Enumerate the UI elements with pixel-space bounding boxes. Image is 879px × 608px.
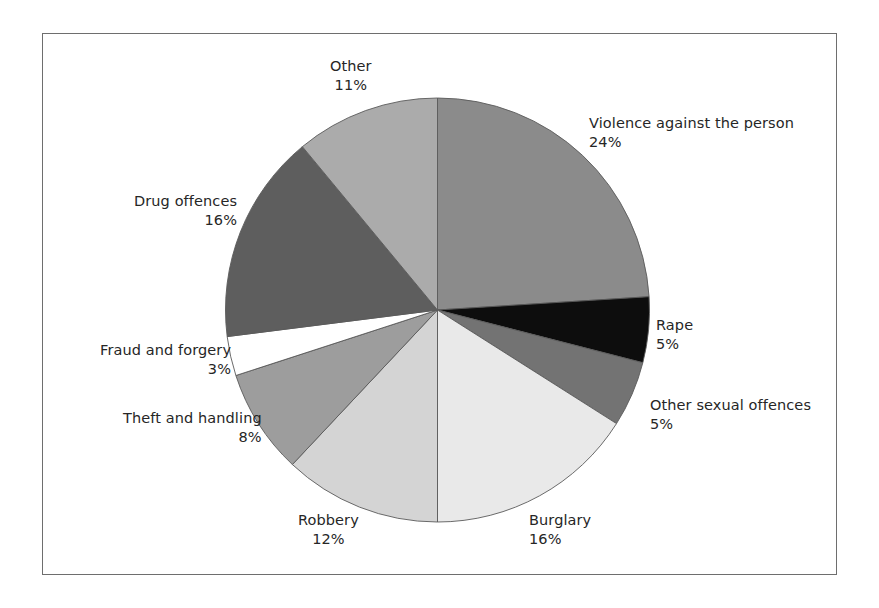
pie-slice-group xyxy=(225,98,649,522)
slice-label-other-sexual-offences-value: 5% xyxy=(650,415,811,434)
slice-label-other-sexual-offences: Other sexual offences 5% xyxy=(650,396,811,435)
slice-label-drug-offences-name: Drug offences xyxy=(134,192,237,211)
slice-label-burglary-name: Burglary xyxy=(529,511,591,530)
slice-label-theft-and-handling-value: 8% xyxy=(123,428,262,447)
slice-label-burglary: Burglary 16% xyxy=(529,511,591,550)
slice-label-violence-against-the-person-name: Violence against the person xyxy=(589,114,794,133)
slice-label-rape-name: Rape xyxy=(656,316,693,335)
slice-label-robbery: Robbery 12% xyxy=(298,511,359,550)
slice-label-other-sexual-offences-name: Other sexual offences xyxy=(650,396,811,415)
slice-label-violence-against-the-person-value: 24% xyxy=(589,133,794,152)
slice-label-burglary-value: 16% xyxy=(529,530,591,549)
slice-label-drug-offences-value: 16% xyxy=(134,211,237,230)
pie-canvas xyxy=(0,0,879,608)
slice-label-other: Other 11% xyxy=(330,57,372,96)
slice-label-fraud-and-forgery: Fraud and forgery 3% xyxy=(100,341,231,380)
slice-label-other-name: Other xyxy=(330,57,372,76)
slice-label-theft-and-handling: Theft and handling 8% xyxy=(123,409,262,448)
slice-label-fraud-and-forgery-name: Fraud and forgery xyxy=(100,341,231,360)
slice-label-robbery-name: Robbery xyxy=(298,511,359,530)
slice-label-drug-offences: Drug offences 16% xyxy=(134,192,237,231)
slice-label-other-value: 11% xyxy=(330,76,372,95)
slice-label-theft-and-handling-name: Theft and handling xyxy=(123,409,262,428)
pie-svg xyxy=(0,0,879,608)
slice-label-violence-against-the-person: Violence against the person 24% xyxy=(589,114,794,153)
pie-chart-figure: Other 11% Violence against the person 24… xyxy=(0,0,879,608)
slice-label-rape: Rape 5% xyxy=(656,316,693,355)
slice-label-fraud-and-forgery-value: 3% xyxy=(100,360,231,379)
slice-label-robbery-value: 12% xyxy=(298,530,359,549)
slice-label-rape-value: 5% xyxy=(656,335,693,354)
